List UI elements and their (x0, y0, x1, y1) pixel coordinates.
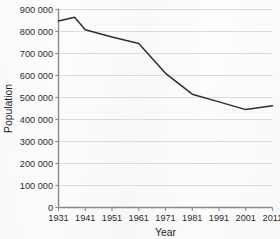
y-tick-label: 400 000 (20, 115, 53, 125)
y-tick-label: 300 000 (20, 137, 53, 147)
y-tick-label: 100 000 (20, 181, 53, 191)
x-tick-label: 1981 (182, 213, 202, 223)
x-tick-label: 1961 (129, 213, 149, 223)
y-axis-title: Population (3, 84, 14, 133)
x-axis-title: Year (155, 227, 177, 238)
y-axis-tick-labels: 0100 000200 000300 000400 000500 000600 … (20, 5, 53, 213)
y-tick-label: 800 000 (20, 27, 53, 37)
x-axis-tick-labels: 193119411951196119711981199120012011 (48, 213, 280, 223)
x-tick-label: 1931 (48, 213, 68, 223)
x-tick-label: 2011 (263, 213, 280, 223)
y-tick-label: 900 000 (20, 5, 53, 15)
gridlines (59, 10, 273, 186)
x-tick-label: 1991 (209, 213, 229, 223)
population-line-chart: 0100 000200 000300 000400 000500 000600 … (0, 0, 280, 239)
y-tick-label: 700 000 (20, 49, 53, 59)
x-tick-label: 1941 (75, 213, 95, 223)
y-tick-label: 600 000 (20, 71, 53, 81)
chart-figure: 0100 000200 000300 000400 000500 000600 … (0, 0, 280, 239)
y-tick-label: 200 000 (20, 159, 53, 169)
y-tick-label: 500 000 (20, 93, 53, 103)
x-tick-label: 2001 (236, 213, 256, 223)
x-tick-label: 1971 (155, 213, 175, 223)
x-tick-label: 1951 (102, 213, 122, 223)
y-tick-label: 0 (48, 203, 53, 213)
